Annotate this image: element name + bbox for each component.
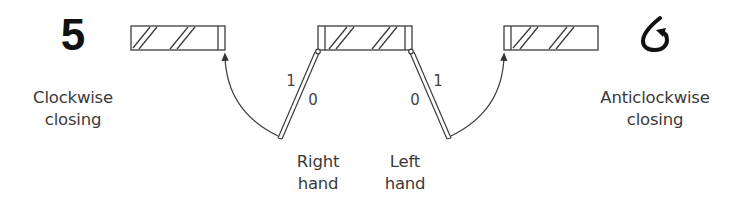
clockwise-symbol-label: 5 xyxy=(61,13,85,57)
center-wall-section xyxy=(318,26,412,50)
right-hand-face-0: 0 xyxy=(308,92,318,108)
right-hand-caption: Right hand xyxy=(297,151,339,195)
right-hand-caption-line1: Right xyxy=(297,151,339,173)
clockwise-caption-line2: closing xyxy=(33,109,113,131)
door-hand-diagram: 5 Clockwise closing Anticlockwise closin… xyxy=(0,0,749,204)
right-hand-caption-line2: hand xyxy=(297,173,339,195)
left-hand-caption-line1: Left xyxy=(385,151,426,173)
right-wall-section xyxy=(504,26,598,50)
clockwise-caption: Clockwise closing xyxy=(33,87,113,131)
anticlockwise-swing-arrow xyxy=(451,56,504,136)
anticlockwise-caption-line2: closing xyxy=(600,109,709,131)
left-wall-section xyxy=(131,26,225,50)
left-hand-face-0: 0 xyxy=(410,92,420,108)
anticlockwise-caption: Anticlockwise closing xyxy=(600,87,709,131)
clockwise-swing-arrow xyxy=(225,56,278,136)
right-hand-face-1: 1 xyxy=(286,73,296,89)
clockwise-caption-line1: Clockwise xyxy=(33,87,113,109)
anticlockwise-caption-line1: Anticlockwise xyxy=(600,87,709,109)
left-hand-caption-line2: hand xyxy=(385,173,426,195)
anticlockwise-symbol-icon xyxy=(643,18,667,50)
left-hand-caption: Left hand xyxy=(385,151,426,195)
left-hand-face-1: 1 xyxy=(433,73,443,89)
